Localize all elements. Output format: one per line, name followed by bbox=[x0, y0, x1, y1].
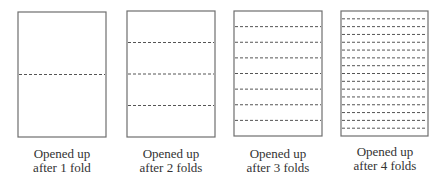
caption-line-2: after 2 folds bbox=[116, 161, 226, 175]
caption-panel-3: Opened up after 3 folds bbox=[223, 147, 333, 175]
caption-panel-4: Opened up after 4 folds bbox=[330, 145, 440, 173]
caption-line-2: after 1 fold bbox=[7, 161, 117, 175]
caption-panel-1: Opened up after 1 fold bbox=[7, 147, 117, 175]
caption-line-1: Opened up bbox=[330, 145, 440, 159]
sheet-panel-3 bbox=[234, 11, 322, 136]
caption-line-2: after 4 folds bbox=[330, 159, 440, 173]
caption-panel-2: Opened up after 2 folds bbox=[116, 147, 226, 175]
caption-line-1: Opened up bbox=[223, 147, 333, 161]
sheet-panel-2 bbox=[127, 11, 215, 137]
caption-line-2: after 3 folds bbox=[223, 161, 333, 175]
sheet-panel-4 bbox=[341, 11, 428, 136]
caption-line-1: Opened up bbox=[7, 147, 117, 161]
caption-line-1: Opened up bbox=[116, 147, 226, 161]
sheet-panel-1 bbox=[18, 12, 106, 137]
